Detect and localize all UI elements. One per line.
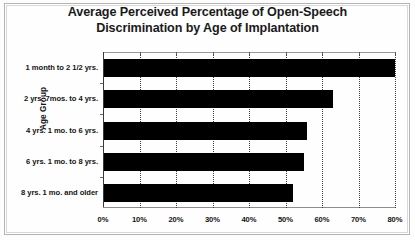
y-axis-tick-label: 8 yrs. 1 mo. and older — [20, 188, 98, 197]
chart-title-line-1: Average Perceived Percentage of Open-Spe… — [0, 5, 415, 21]
top-tick-50pct — [286, 52, 287, 55]
y-axis-tick — [100, 114, 103, 115]
y-axis-tick — [100, 83, 103, 84]
top-tick-60pct — [322, 52, 323, 55]
x-axis-tick-label: 60% — [314, 215, 329, 224]
top-tick-70pct — [359, 52, 360, 55]
chart-title-line-2: Discrimination by Age of Implantation — [0, 21, 415, 37]
bar — [104, 59, 395, 77]
top-tick-40pct — [249, 52, 250, 55]
x-axis-tick-label: 50% — [278, 215, 293, 224]
x-axis-tick-label: 10% — [132, 215, 147, 224]
x-axis-tick-labels: 0%10%20%30%40%50%60%70%80% — [103, 211, 395, 225]
top-tick-20pct — [176, 52, 177, 55]
bar — [104, 153, 304, 171]
x-axis-tick-label: 0% — [98, 215, 109, 224]
top-tick-10pct — [140, 52, 141, 55]
x-axis-tick-label: 80% — [387, 215, 402, 224]
x-axis-tick-label: 20% — [168, 215, 183, 224]
x-axis-tick-label: 30% — [205, 215, 220, 224]
bar — [104, 184, 293, 202]
y-axis-tick — [100, 146, 103, 147]
top-tick-30pct — [213, 52, 214, 55]
top-tick-80pct — [395, 52, 396, 55]
chart-figure: Average Perceived Percentage of Open-Spe… — [0, 0, 415, 240]
bar — [104, 90, 333, 108]
x-axis-tick-label: 70% — [351, 215, 366, 224]
y-axis-tick-label: 4 yrs. 1 mo. to 6 yrs. — [20, 126, 98, 135]
bar — [104, 122, 307, 140]
x-axis-tick-label: 40% — [241, 215, 256, 224]
y-axis-tick — [100, 177, 103, 178]
y-axis-tick-label: 1 month to 2 1/2 yrs. — [20, 63, 98, 72]
y-axis-tick-label: 6 yrs. 1 mo. to 8 yrs. — [20, 157, 98, 166]
plot-area — [103, 52, 395, 208]
gridline-80pct — [395, 52, 396, 208]
y-axis-tick-labels: 1 month to 2 1/2 yrs.2 yrs. 7mos. to 4 y… — [20, 52, 98, 208]
y-axis-tick-label: 2 yrs. 7mos. to 4 yrs. — [20, 94, 98, 103]
chart-title: Average Perceived Percentage of Open-Spe… — [0, 5, 415, 36]
